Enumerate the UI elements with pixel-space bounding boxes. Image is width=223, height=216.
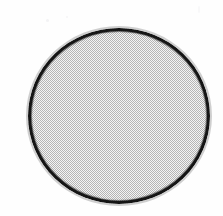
gray-filled-circle [28, 28, 210, 204]
circle-fill [28, 28, 210, 204]
figure-canvas [0, 0, 223, 216]
scan-speck [46, 19, 49, 22]
scan-speck [66, 16, 68, 18]
scan-speck [198, 6, 200, 13]
